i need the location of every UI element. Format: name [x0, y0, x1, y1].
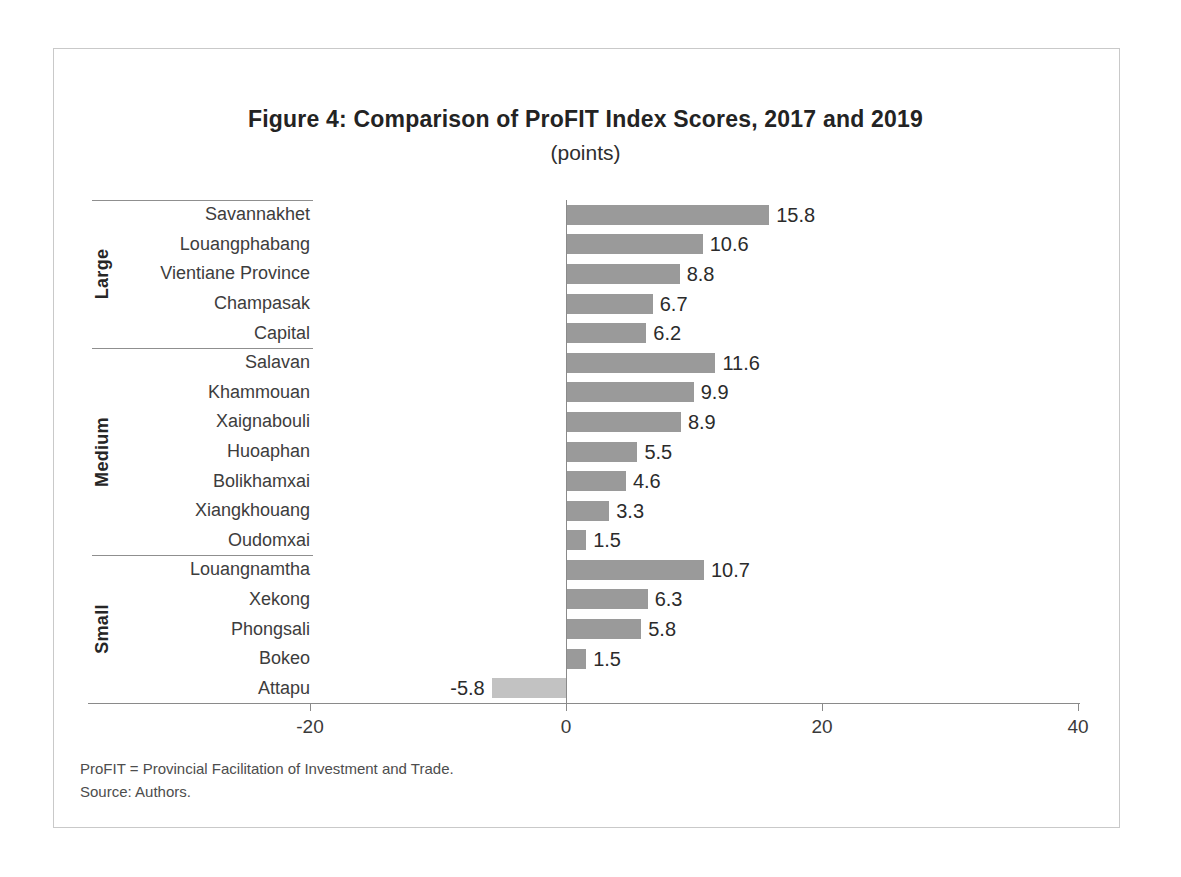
x-axis-tick-mark	[822, 704, 823, 711]
footnote-abbreviation: ProFIT = Provincial Facilitation of Inve…	[80, 760, 454, 777]
bar-value-label: 1.5	[593, 644, 621, 674]
category-label: Khammouan	[92, 382, 310, 403]
bar-value-label: 1.5	[593, 525, 621, 555]
category-label: Vientiane Province	[92, 263, 310, 284]
group-label: Large	[91, 200, 113, 348]
x-axis-tick-label: 40	[1038, 716, 1118, 738]
bar-value-label: 6.2	[653, 318, 681, 348]
bar-value-label: 5.8	[648, 614, 676, 644]
category-label: Bokeo	[92, 648, 310, 669]
group-label: Medium	[91, 348, 113, 555]
category-label: Louangnamtha	[92, 559, 310, 580]
bar	[567, 442, 637, 462]
bar-value-label: -5.8	[385, 673, 485, 703]
bar	[567, 649, 586, 669]
bar	[567, 501, 609, 521]
bar	[567, 353, 715, 373]
category-label: Louangphabang	[92, 234, 310, 255]
footnote-source: Source: Authors.	[80, 783, 191, 800]
bar-value-label: 6.7	[660, 289, 688, 319]
category-label: Savannakhet	[92, 204, 310, 225]
bar	[567, 471, 626, 491]
bar-value-label: 8.8	[687, 259, 715, 289]
category-label: Phongsali	[92, 619, 310, 640]
page: Figure 4: Comparison of ProFIT Index Sco…	[0, 0, 1181, 877]
x-axis-tick-mark	[310, 704, 311, 711]
bar-value-label: 9.9	[701, 377, 729, 407]
group-label: Small	[91, 555, 113, 703]
bar-value-label: 4.6	[633, 466, 661, 496]
bar-value-label: 8.9	[688, 407, 716, 437]
bar-value-label: 10.6	[710, 229, 749, 259]
bar-value-label: 5.5	[644, 437, 672, 467]
bar-value-label: 6.3	[655, 584, 683, 614]
bar	[567, 205, 769, 225]
bar-value-label: 10.7	[711, 555, 750, 585]
bar	[567, 412, 681, 432]
category-label: Attapu	[92, 678, 310, 699]
category-label: Salavan	[92, 352, 310, 373]
category-label: Xaignabouli	[92, 411, 310, 432]
x-axis-tick-label: 0	[526, 716, 606, 738]
bar	[567, 530, 586, 550]
bar	[567, 234, 703, 254]
bar	[567, 382, 694, 402]
category-label: Xiangkhouang	[92, 500, 310, 521]
bar-value-label: 15.8	[776, 200, 815, 230]
bar	[567, 323, 646, 343]
group-separator	[92, 348, 313, 349]
bar	[567, 589, 648, 609]
bar	[567, 560, 704, 580]
group-separator	[92, 555, 313, 556]
bar	[492, 678, 566, 698]
bar	[567, 619, 641, 639]
bar	[567, 264, 680, 284]
x-axis-tick-label: -20	[270, 716, 350, 738]
category-label: Huoaphan	[92, 441, 310, 462]
x-axis-tick-label: 20	[782, 716, 862, 738]
category-label: Bolikhamxai	[92, 471, 310, 492]
bar-value-label: 11.6	[722, 348, 759, 378]
category-label: Xekong	[92, 589, 310, 610]
category-label: Capital	[92, 323, 310, 344]
x-axis-tick-mark	[566, 704, 567, 711]
bar-value-label: 3.3	[616, 496, 644, 526]
bar-chart: Savannakhet15.8Louangphabang10.6Vientian…	[0, 0, 1181, 877]
x-axis-tick-mark	[1078, 704, 1079, 711]
bar	[567, 294, 653, 314]
category-label: Champasak	[92, 293, 310, 314]
group-separator	[92, 200, 313, 201]
x-axis-line	[88, 703, 1080, 704]
category-label: Oudomxai	[92, 530, 310, 551]
